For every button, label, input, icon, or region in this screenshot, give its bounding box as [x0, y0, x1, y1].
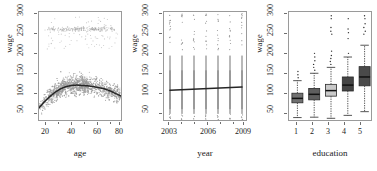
x-tick-mark [168, 122, 169, 125]
y-tick-label-100: 100 [142, 84, 150, 96]
x-tick-mark [97, 122, 98, 125]
y-tick-label-50: 50 [17, 105, 25, 113]
x-tick-mark-minor [233, 122, 234, 124]
y-tick-mark [34, 73, 37, 74]
year-panel: wage 50 100 150 200 250 300 2003 2006 20… [125, 0, 252, 171]
y-tick-mark [34, 113, 37, 114]
x-tick-label-1: 1 [289, 128, 303, 136]
y-tick-label-250: 250 [17, 24, 25, 36]
x-tick-mark [45, 122, 46, 125]
y-tick-mark [159, 13, 162, 14]
y-tick-label-200: 200 [267, 44, 275, 56]
wage-data-figure: wage 50 100 150 200 250 300 20 40 60 80 … [0, 0, 377, 171]
age-scatter-canvas [39, 12, 122, 121]
y-tick-mark [284, 93, 287, 94]
y-tick-mark [284, 113, 287, 114]
y-tick-mark [159, 73, 162, 74]
y-axis-label: wage [129, 34, 139, 53]
year-scatter-canvas [164, 12, 247, 121]
y-tick-mark [284, 73, 287, 74]
y-tick-label-200: 200 [142, 44, 150, 56]
y-tick-mark [284, 53, 287, 54]
x-tick-mark [119, 122, 120, 125]
y-tick-label-300: 300 [142, 4, 150, 16]
x-tick-label-2: 2 [305, 128, 319, 136]
x-tick-label-5: 5 [353, 128, 367, 136]
y-tick-label-200: 200 [17, 44, 25, 56]
x-tick-mark [312, 122, 313, 125]
y-tick-mark [159, 113, 162, 114]
y-tick-label-150: 150 [142, 64, 150, 76]
x-tick-label-2003: 2003 [157, 128, 181, 136]
y-tick-mark [284, 13, 287, 14]
y-tick-mark [284, 33, 287, 34]
x-tick-label-20: 20 [37, 128, 53, 136]
y-tick-label-100: 100 [17, 84, 25, 96]
x-axis-label: age [40, 148, 120, 158]
x-tick-mark-minor [194, 122, 195, 124]
y-tick-label-150: 150 [267, 64, 275, 76]
age-panel: wage 50 100 150 200 250 300 20 40 60 80 … [0, 0, 130, 171]
x-tick-label-3: 3 [321, 128, 335, 136]
education-plot-area [288, 11, 372, 121]
x-tick-label-2006: 2006 [196, 128, 220, 136]
y-tick-label-50: 50 [142, 105, 150, 113]
x-tick-mark [328, 122, 329, 125]
x-tick-label-40: 40 [63, 128, 79, 136]
y-tick-label-300: 300 [17, 4, 25, 16]
education-boxplot-canvas [289, 12, 372, 121]
y-tick-label-100: 100 [267, 84, 275, 96]
x-tick-mark-minor [84, 122, 85, 124]
y-tick-mark [159, 93, 162, 94]
y-tick-mark [34, 93, 37, 94]
y-axis-label: wage [254, 34, 264, 53]
y-tick-mark [34, 13, 37, 14]
x-axis-label: year [165, 148, 245, 158]
y-tick-mark [159, 53, 162, 54]
x-tick-mark-minor [220, 122, 221, 124]
x-tick-mark-minor [110, 122, 111, 124]
y-tick-mark [34, 53, 37, 54]
x-tick-mark [71, 122, 72, 125]
y-tick-label-250: 250 [142, 24, 150, 36]
year-plot-area [163, 11, 247, 121]
y-tick-label-250: 250 [267, 24, 275, 36]
x-tick-label-4: 4 [337, 128, 351, 136]
y-tick-mark [34, 33, 37, 34]
education-panel: wage 50 100 150 200 250 300 1 2 3 4 5 ed… [250, 0, 377, 171]
x-tick-mark [296, 122, 297, 125]
y-tick-mark [159, 33, 162, 34]
age-plot-area [38, 11, 122, 121]
y-tick-label-150: 150 [17, 64, 25, 76]
x-tick-mark-minor [181, 122, 182, 124]
y-tick-label-300: 300 [267, 4, 275, 16]
x-tick-mark [360, 122, 361, 125]
x-tick-label-60: 60 [89, 128, 105, 136]
y-axis-label: wage [4, 34, 14, 53]
x-tick-mark [207, 122, 208, 125]
x-tick-mark [243, 122, 244, 125]
x-axis-label: education [278, 148, 377, 158]
x-tick-mark-minor [58, 122, 59, 124]
y-tick-label-50: 50 [267, 105, 275, 113]
x-tick-mark [344, 122, 345, 125]
